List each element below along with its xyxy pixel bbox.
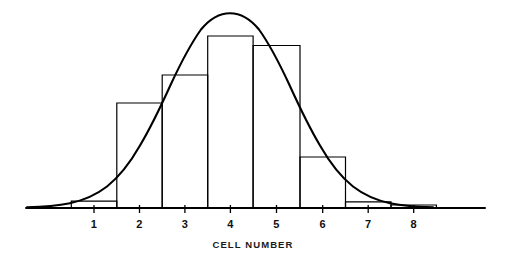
x-axis-tick-label-1: 1 (91, 218, 97, 230)
x-axis-tick-label-4: 4 (227, 218, 234, 230)
x-axis-tick-label-6: 6 (320, 218, 326, 230)
histogram-bar-4 (208, 36, 253, 208)
x-axis-tick-label-2: 2 (136, 218, 142, 230)
x-axis-title: CELL NUMBER (212, 239, 293, 250)
histogram-bar-3 (162, 75, 208, 208)
x-axis-tick-label-8: 8 (411, 218, 417, 230)
histogram-bars (71, 36, 436, 208)
histogram-bar-6 (300, 157, 346, 208)
histogram-plot: 1 2 3 4 5 6 7 8 CELL NUMBER (0, 0, 511, 267)
x-axis-tick-labels: 1 2 3 4 5 6 7 8 (91, 218, 417, 230)
histogram-figure: 1 2 3 4 5 6 7 8 CELL NUMBER (0, 0, 511, 267)
x-axis-tick-label-3: 3 (182, 218, 188, 230)
x-axis-tick-label-5: 5 (273, 218, 279, 230)
histogram-bar-5 (253, 46, 300, 209)
normal-distribution-curve (27, 13, 433, 207)
x-axis-tick-label-7: 7 (365, 218, 371, 230)
